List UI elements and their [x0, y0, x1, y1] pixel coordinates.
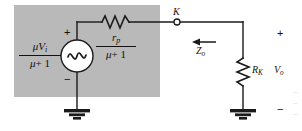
source-denominator-rest: + 1 — [36, 57, 50, 69]
output-minus-sign: − — [277, 104, 283, 115]
output-impedance-subscript: o — [202, 50, 206, 58]
source-numerator-mu: μV — [33, 40, 45, 52]
series-resistor-numerator-subscript: p — [116, 36, 120, 45]
series-resistor-value-label: rp μ+ 1 — [96, 32, 136, 61]
circuit-figure: μVi μ+ 1 + − rp μ+ 1 K Zo RK + Vo − — — … — [0, 0, 302, 131]
load-ground-icon — [230, 109, 256, 120]
series-resistor-fraction-bar — [96, 46, 136, 47]
source-fraction-bar — [19, 55, 61, 56]
caption-fragment-line-2: — — [293, 99, 298, 107]
load-resistor-subscript: K — [258, 69, 263, 77]
series-resistor-zigzag — [102, 16, 129, 28]
series-resistor-denominator-rest: + 1 — [112, 48, 126, 60]
caption-fragment-line-1: — — [293, 88, 298, 96]
output-voltage-subscript: o — [280, 69, 284, 77]
load-resistor-zigzag — [237, 58, 249, 86]
output-voltage-label: Vo — [274, 65, 284, 77]
output-impedance-label: Zo — [196, 46, 205, 58]
source-plus-sign: + — [64, 27, 70, 38]
source-value-label: μVi μ+ 1 — [19, 41, 61, 70]
caption-fragment-line-3: — — [293, 110, 298, 118]
load-resistor-label: RK — [252, 65, 263, 77]
source-minus-sign: − — [64, 74, 70, 85]
node-k-label: K — [173, 6, 180, 17]
node-k-terminal — [174, 19, 180, 25]
output-plus-sign: + — [277, 28, 283, 39]
source-ground-icon — [64, 109, 90, 120]
source-numerator-subscript: i — [45, 45, 47, 54]
